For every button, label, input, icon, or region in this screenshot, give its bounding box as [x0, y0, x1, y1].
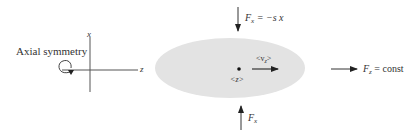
diagram-canvas: [0, 0, 419, 139]
x-axis-label: x: [87, 30, 91, 39]
top-force-label: Fx = −s x: [245, 13, 284, 25]
velocity-label: <vz>: [256, 55, 271, 64]
z-axis-label: z: [140, 65, 144, 74]
axial-symmetry-label: Axial symmetry: [16, 46, 87, 57]
centroid-dot: [237, 67, 241, 71]
bottom-force-label: Fx: [248, 113, 257, 125]
rotation-arrow-icon: [59, 60, 74, 75]
right-force-label: Fz = const: [363, 64, 404, 76]
centroid-label: <z>: [230, 76, 244, 84]
beam-ellipse: [155, 38, 305, 98]
